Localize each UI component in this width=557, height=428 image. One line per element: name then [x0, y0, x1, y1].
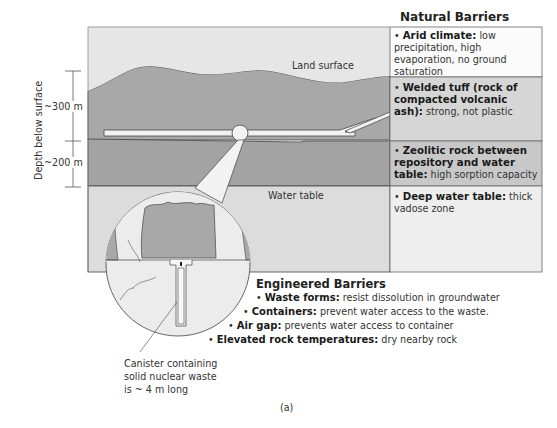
natural-barrier-welded-tuff: • Welded tuff (rock of compacted volcani…: [390, 79, 542, 141]
canister-caption-line-1: Canister containing: [124, 358, 217, 369]
bullet: •: [228, 320, 234, 331]
depth-axis-label: Depth below surface: [33, 81, 44, 180]
barrier-term: Deep water table:: [403, 191, 506, 202]
land-surface-label: Land surface: [292, 60, 354, 71]
bullet: •: [394, 145, 400, 156]
natural-barrier-arid-climate: • Arid climate: low precipitation, high …: [390, 27, 542, 77]
bullet: •: [394, 30, 400, 41]
barrier-desc: strong, not plastic: [426, 106, 513, 117]
natural-barrier-zeolitic-rock: • Zeolitic rock between repository and w…: [390, 142, 542, 186]
bullet: •: [208, 334, 214, 345]
barrier-term: Waste forms:: [265, 292, 340, 303]
barrier-desc: prevent water access to the waste.: [320, 306, 489, 317]
bullet: •: [394, 82, 400, 93]
barrier-desc: dry nearby rock: [381, 334, 457, 345]
bullet: •: [256, 292, 262, 303]
engineered-barrier-waste-forms: • Waste forms: resist dissolution in gro…: [256, 292, 500, 303]
barrier-term: Containers:: [252, 306, 317, 317]
canister: [178, 268, 184, 324]
natural-barrier-deep-water-table: • Deep water table: thick vadose zone: [390, 188, 542, 272]
barrier-desc: high sorption capacity: [431, 169, 538, 180]
engineered-barrier-rock-temperatures: • Elevated rock temperatures: dry nearby…: [208, 334, 457, 345]
barrier-term: Air gap:: [237, 320, 282, 331]
engineered-barrier-air-gap: • Air gap: prevents water access to cont…: [228, 320, 454, 331]
canister-caption-line-3: is ~ 4 m long: [124, 384, 188, 395]
depth-upper-label: ~300 m: [44, 101, 83, 112]
barrier-desc: resist dissolution in groundwater: [343, 292, 500, 303]
water-table-label: Water table: [268, 190, 324, 201]
barrier-term: Arid climate:: [403, 30, 477, 41]
natural-barriers-title: Natural Barriers: [400, 10, 509, 24]
bullet: •: [394, 191, 400, 202]
barrier-term: Elevated rock temperatures:: [217, 334, 379, 345]
rock-pillar: [141, 202, 216, 258]
canister-caption-line-2: solid nuclear waste: [124, 371, 217, 382]
engineered-barriers-title: Engineered Barriers: [256, 277, 386, 291]
bullet: •: [243, 306, 249, 317]
depth-lower-label: ~200 m: [44, 157, 83, 168]
figure-label: (a): [280, 402, 293, 413]
engineered-barrier-containers: • Containers: prevent water access to th…: [243, 306, 489, 317]
zoom-point: [232, 125, 248, 141]
barrier-desc: prevents water access to container: [284, 320, 453, 331]
